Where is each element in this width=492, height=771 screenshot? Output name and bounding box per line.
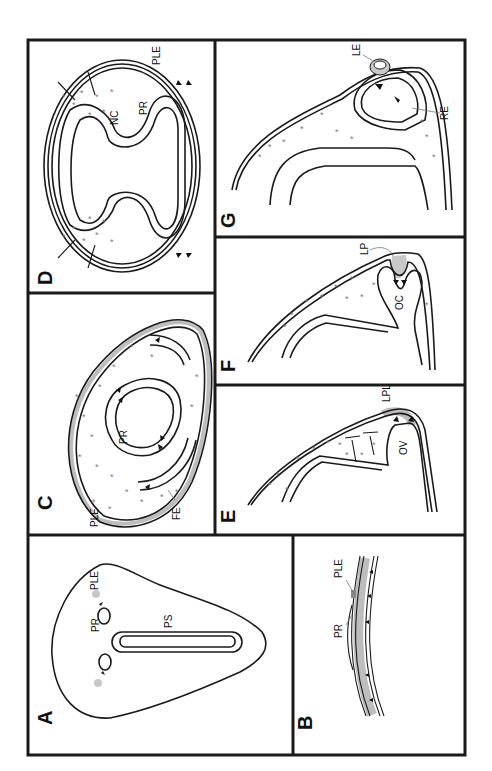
outer-ectoderm <box>232 68 452 210</box>
svg-text:*: * <box>75 392 79 402</box>
svg-text:*: * <box>320 292 324 302</box>
label-pr: PR <box>138 101 149 115</box>
svg-text:*: * <box>82 412 86 422</box>
arrowheads <box>116 337 165 490</box>
svg-text:*: * <box>95 92 99 102</box>
svg-text:*: * <box>110 87 114 97</box>
svg-text:*: * <box>150 352 154 362</box>
svg-text:*: * <box>268 480 272 490</box>
svg-text:*: * <box>125 487 129 497</box>
svg-text:*: * <box>258 152 262 162</box>
optic-vesicle-inner <box>290 462 382 502</box>
neural-lumen <box>71 108 178 229</box>
svg-text:*: * <box>372 280 376 290</box>
svg-text:*: * <box>285 485 289 495</box>
panel-label-g: G <box>217 212 239 228</box>
arrowhead-icon <box>99 602 103 606</box>
label-ple: PLE <box>89 508 100 527</box>
panel-g: *** *** **** G LE RE <box>217 43 452 228</box>
ple-spot-upper <box>92 590 100 598</box>
label-lp: LP <box>359 242 370 255</box>
svg-text:*: * <box>268 142 272 152</box>
label-pr: PR <box>333 624 344 638</box>
panel-label-a: A <box>34 711 56 725</box>
label-pr: PR <box>118 430 129 444</box>
svg-text:*: * <box>290 310 294 320</box>
svg-text:*: * <box>102 107 106 117</box>
panel-d: **** *** **** *** D NC PR PLE <box>34 46 200 285</box>
svg-text:*: * <box>195 372 199 382</box>
optic-cup-inner <box>290 323 388 358</box>
svg-text:*: * <box>320 110 324 120</box>
embryo-outline <box>52 564 266 718</box>
svg-text:*: * <box>420 117 424 127</box>
svg-text:*: * <box>72 224 76 234</box>
svg-text:*: * <box>190 402 194 412</box>
svg-text:*: * <box>110 237 114 247</box>
svg-text:*: * <box>82 236 86 246</box>
svg-text:*: * <box>62 92 66 102</box>
svg-text:*: * <box>140 497 144 507</box>
panel-b: B PLE PR <box>294 556 384 730</box>
svg-text:*: * <box>338 440 342 450</box>
svg-text:*: * <box>425 132 429 142</box>
svg-text:*: * <box>283 322 287 332</box>
panel-c: **** **** **** **** ** C PLE PR FE <box>34 320 212 527</box>
arrowheads <box>375 84 400 103</box>
leader-line <box>346 580 355 595</box>
label-ple: PLE <box>151 46 162 65</box>
label-ple: PLE <box>333 559 344 578</box>
placode-region-lower <box>99 654 111 670</box>
leader-line <box>363 55 374 62</box>
svg-text:*: * <box>98 382 102 392</box>
svg-text:*: * <box>88 110 92 120</box>
panel-a: A PLE PR PS <box>34 564 266 725</box>
svg-text:*: * <box>282 137 286 147</box>
svg-text:*: * <box>345 294 349 304</box>
primitive-streak-outer <box>112 632 242 652</box>
svg-text:*: * <box>108 504 112 514</box>
svg-text:*: * <box>88 214 92 224</box>
svg-text:*: * <box>92 497 96 507</box>
svg-text:*: * <box>360 292 364 302</box>
label-re: RE <box>439 106 450 120</box>
panel-e: *** *** **** E LPL OV <box>217 384 437 523</box>
svg-text:*: * <box>350 134 354 144</box>
svg-text:*: * <box>112 362 116 372</box>
svg-text:*: * <box>102 217 106 227</box>
ple-spot-lower <box>94 679 102 687</box>
svg-text:*: * <box>110 472 114 482</box>
panel-label-d: D <box>34 271 56 285</box>
optic-cup-inner <box>361 78 417 122</box>
svg-text:*: * <box>95 462 99 472</box>
placode-rim <box>71 322 209 523</box>
svg-text:*: * <box>90 432 94 442</box>
svg-text:*: * <box>300 124 304 134</box>
inner-ectoderm <box>252 260 430 370</box>
leader-line <box>168 490 175 500</box>
svg-text:*: * <box>160 492 164 502</box>
svg-text:*: * <box>175 487 179 497</box>
inner-ectoderm <box>251 413 432 512</box>
svg-text:*: * <box>335 127 339 137</box>
ple-mark <box>351 590 356 598</box>
svg-text:*: * <box>432 152 436 162</box>
lens-lumen <box>374 61 386 69</box>
svg-text:*: * <box>95 230 99 240</box>
panel-label-c: C <box>34 496 56 510</box>
svg-text:*: * <box>276 470 280 480</box>
svg-text:*: * <box>312 444 316 454</box>
figure-canvas: A PLE PR PS B PLE PR **** **** <box>0 0 492 771</box>
svg-text:*: * <box>80 88 84 98</box>
svg-text:*: * <box>130 342 134 352</box>
label-oc: OC <box>394 295 405 310</box>
label-ps: PS <box>163 614 174 628</box>
label-fe: FE <box>171 507 182 520</box>
svg-text:*: * <box>326 438 330 448</box>
panel-label-f: F <box>217 360 239 372</box>
svg-text:*: * <box>305 297 309 307</box>
label-nc: NC <box>109 111 120 125</box>
panel-label-b: B <box>294 716 316 730</box>
outer-ectoderm <box>69 320 212 527</box>
primitive-streak-inner <box>120 636 235 647</box>
